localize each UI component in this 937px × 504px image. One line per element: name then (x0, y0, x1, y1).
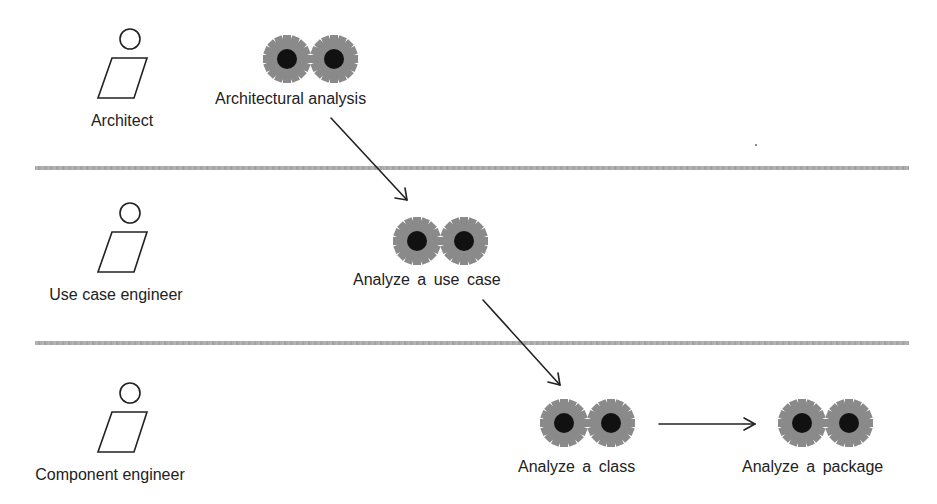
gears-icon (776, 397, 876, 449)
activity-label: Analyze a package (742, 458, 883, 476)
worker-icon (90, 382, 154, 456)
worker-icon (90, 28, 154, 102)
gears-icon (261, 33, 361, 85)
scan-artifact (755, 144, 757, 146)
diagram-canvas: Architect Architectural analysis Use cas… (0, 0, 937, 504)
flow-arrow-class-to-package (659, 418, 755, 430)
gears-icon (538, 397, 638, 449)
lane-divider (35, 341, 909, 345)
worker-label: Use case engineer (20, 286, 212, 304)
worker-architect: Architect (32, 28, 212, 130)
activity-label: Analyze a use case (353, 271, 501, 289)
worker-label: Architect (32, 112, 212, 130)
activity-label: Analyze a class (518, 458, 635, 476)
flow-arrow-architectural-to-use-case (331, 118, 407, 200)
gears-icon (391, 215, 491, 267)
worker-icon (90, 202, 154, 276)
worker-label: Component engineer (8, 466, 212, 484)
lane-divider (35, 166, 909, 170)
worker-use-case-engineer: Use case engineer (32, 202, 212, 304)
worker-component-engineer: Component engineer (32, 382, 212, 484)
activity-label: Architectural analysis (215, 90, 366, 108)
